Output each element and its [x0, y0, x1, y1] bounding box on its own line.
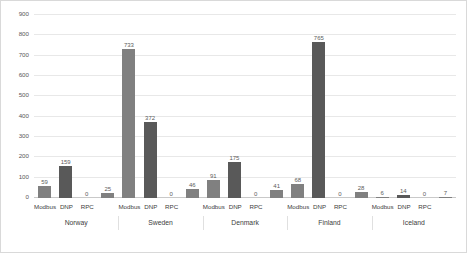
bar-value-label: 0	[423, 191, 426, 197]
bar[interactable]: 765	[312, 42, 325, 198]
bar-slot: 765	[308, 15, 329, 198]
bar-value-label: 159	[61, 159, 71, 165]
bar-slot: 28	[351, 15, 372, 198]
subcategory-tick-label	[182, 200, 203, 214]
y-axis-tick-label: 0	[26, 194, 29, 200]
subcategory-tick-label	[98, 200, 119, 214]
bar-slot: 41	[266, 15, 287, 198]
subcategory-tick-label: RPC	[246, 200, 267, 214]
bar-slot: 0	[161, 15, 182, 198]
bar-slot: 14	[393, 15, 414, 198]
bar-slot: 68	[287, 15, 308, 198]
bar-group: 61407	[372, 15, 456, 198]
subcategory-tick-label: DNP	[394, 200, 415, 214]
bar[interactable]: 91	[207, 180, 220, 199]
subcategory-group: ModbusDNPRPC	[203, 200, 287, 214]
bar[interactable]: 175	[228, 162, 241, 198]
bar-value-label: 733	[124, 42, 134, 48]
bar[interactable]: 159	[59, 166, 72, 198]
bar-group: 733372046	[118, 15, 202, 198]
subcategory-group: ModbusDNPRPC	[34, 200, 118, 214]
subcategory-tick-label: DNP	[225, 200, 246, 214]
bar-value-label: 59	[41, 179, 48, 185]
bar-value-label: 6	[380, 190, 383, 196]
subcategory-tick-label: RPC	[77, 200, 98, 214]
bar-value-label: 372	[145, 115, 155, 121]
category-separator	[203, 216, 204, 230]
y-axis-tick-label: 300	[19, 133, 29, 139]
bar-slot: 733	[118, 15, 139, 198]
subcategory-tick-label: Modbus	[118, 200, 140, 214]
bar-slot: 0	[414, 15, 435, 198]
y-axis-tick-label: 600	[19, 72, 29, 78]
category-tick-label: Sweden	[118, 216, 202, 230]
category-separator	[372, 216, 373, 230]
subcategory-tick-label	[435, 200, 456, 214]
bar-slot: 7	[435, 15, 456, 198]
y-axis-tick-label: 100	[19, 174, 29, 180]
subcategory-tick-label: DNP	[140, 200, 161, 214]
category-separator	[287, 216, 288, 230]
subcategory-tick-label: DNP	[309, 200, 330, 214]
plot-area: 0100200300400500600700800900 59159025733…	[34, 15, 456, 198]
category-axis: NorwaySwedenDenmarkFinlandIceland	[34, 216, 456, 230]
bar[interactable]: 733	[122, 49, 135, 198]
bar[interactable]: 28	[355, 192, 368, 198]
subcategory-tick-label: Modbus	[372, 200, 394, 214]
category-tick-label: Finland	[287, 216, 371, 230]
bar-slot: 175	[224, 15, 245, 198]
bar-value-label: 14	[400, 188, 407, 194]
category-separator	[118, 216, 119, 230]
bar-slot: 91	[203, 15, 224, 198]
bar-chart: 0100200300400500600700800900 59159025733…	[0, 0, 467, 253]
bar[interactable]: 7	[439, 197, 452, 198]
bar-value-label: 91	[210, 173, 217, 179]
bar-value-label: 0	[338, 191, 341, 197]
y-axis-tick-label: 500	[19, 92, 29, 98]
subcategory-group: ModbusDNPRPC	[118, 200, 202, 214]
bar-group: 68765028	[287, 15, 371, 198]
bar-value-label: 765	[314, 35, 324, 41]
subcategory-tick-label: Modbus	[203, 200, 225, 214]
subcategory-tick-label	[266, 200, 287, 214]
subcategory-tick-label: RPC	[330, 200, 351, 214]
category-tick-label: Norway	[34, 216, 118, 230]
bar-value-label: 7	[444, 190, 447, 196]
bar-value-label: 68	[294, 177, 301, 183]
bar-slot: 46	[182, 15, 203, 198]
bar[interactable]: 41	[270, 190, 283, 198]
bar-value-label: 25	[105, 186, 112, 192]
bar[interactable]: 46	[186, 189, 199, 198]
y-axis-tick-label: 400	[19, 113, 29, 119]
bar-slot: 372	[140, 15, 161, 198]
bar[interactable]: 372	[144, 122, 157, 198]
subcategory-group: ModbusDNPRPC	[287, 200, 371, 214]
y-axis-tick-label: 700	[19, 52, 29, 58]
bar-slot: 25	[97, 15, 118, 198]
bar[interactable]: 68	[291, 184, 304, 198]
bar-slot: 159	[55, 15, 76, 198]
bar-slot: 0	[245, 15, 266, 198]
bar-group: 91175041	[203, 15, 287, 198]
subcategory-tick-label: DNP	[56, 200, 77, 214]
bar-slot: 0	[329, 15, 350, 198]
y-axis-tick-label: 200	[19, 153, 29, 159]
bar[interactable]: 6	[376, 197, 389, 198]
y-axis-tick-label: 900	[19, 11, 29, 17]
bar[interactable]: 59	[38, 186, 51, 198]
bar[interactable]: 25	[101, 193, 114, 198]
bar-series: 59159025733372046911750416876502861407	[34, 15, 456, 198]
bar-group: 59159025	[34, 15, 118, 198]
bar-value-label: 175	[229, 155, 239, 161]
bar[interactable]: 14	[397, 195, 410, 198]
bar-slot: 6	[372, 15, 393, 198]
subcategory-tick-label	[351, 200, 372, 214]
bar-value-label: 0	[169, 191, 172, 197]
subcategory-tick-label: Modbus	[287, 200, 309, 214]
bar-value-label: 28	[358, 185, 365, 191]
bar-slot: 0	[76, 15, 97, 198]
bar-value-label: 46	[189, 182, 196, 188]
category-tick-label: Iceland	[372, 216, 456, 230]
y-axis-tick-label: 800	[19, 31, 29, 37]
bar-value-label: 41	[273, 183, 280, 189]
